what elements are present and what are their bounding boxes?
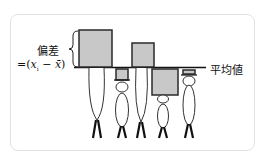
deviation-box-4: [152, 69, 178, 95]
person-5: [181, 70, 197, 138]
deviation-box-1: [79, 30, 112, 67]
body-1: [89, 68, 104, 120]
deviation-diagram: [0, 0, 263, 160]
legs-1: [93, 120, 101, 138]
person-4: [152, 69, 178, 138]
legs-4: [159, 127, 167, 138]
body-2: [116, 93, 129, 127]
head-4: [158, 95, 169, 103]
deviation-brace-icon: [69, 31, 78, 67]
body-3: [136, 68, 148, 122]
head-2: [116, 82, 128, 92]
deviation-box-5: [183, 70, 195, 74]
body-4: [158, 104, 169, 128]
body-5: [183, 85, 195, 125]
deviation-box-3: [132, 43, 154, 67]
person-2: [114, 69, 130, 138]
person-3: [132, 43, 154, 138]
deviation-formula: =(xi − x̄): [17, 58, 65, 72]
legs-5: [185, 124, 193, 138]
mean-label: 平均値: [210, 61, 243, 77]
formula-suffix: ): [61, 58, 65, 71]
person-1: [79, 30, 112, 138]
legs-2: [118, 126, 126, 138]
deviation-box-2: [116, 69, 128, 80]
formula-minus: −: [39, 58, 55, 71]
formula-prefix: =(: [17, 58, 31, 71]
legs-3: [137, 122, 145, 138]
deviation-label: 偏差: [37, 42, 59, 58]
